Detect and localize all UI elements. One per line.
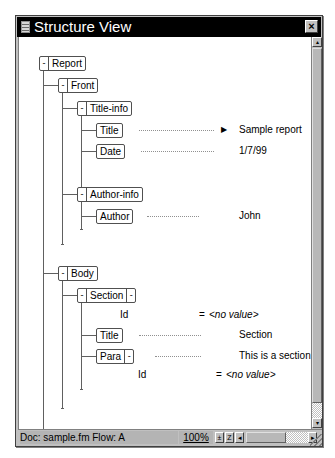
element-value: Section xyxy=(239,329,272,341)
attributes-toggle[interactable]: - xyxy=(126,289,135,302)
tree-line xyxy=(43,64,44,429)
tree-node-section[interactable]: - Section - xyxy=(77,288,136,303)
tree-line xyxy=(43,273,58,274)
node-label: Report xyxy=(49,57,85,70)
doc-flow-status: Doc: sample.fm Flow: A xyxy=(20,431,178,444)
collapse-toggle[interactable]: - xyxy=(78,289,87,302)
collapse-toggle[interactable]: - xyxy=(59,79,68,92)
tree-line xyxy=(62,295,77,296)
tree-line-end xyxy=(80,389,83,390)
collapse-toggle[interactable]: - xyxy=(40,57,49,70)
leader-dots xyxy=(147,216,199,217)
tree-node-title[interactable]: Title xyxy=(96,123,123,138)
attribute-eq: = xyxy=(216,369,222,381)
structure-view-window: Structure View × - Re xyxy=(15,15,323,447)
node-label: Body xyxy=(68,267,97,280)
tree-line xyxy=(81,216,96,217)
tree-line xyxy=(81,296,82,389)
node-label: Date xyxy=(97,145,124,158)
title-bar[interactable]: Structure View × xyxy=(17,17,321,37)
tree-line xyxy=(62,194,77,195)
attribute-name: Id xyxy=(120,309,128,321)
insertion-marker-icon: ▶ xyxy=(221,124,227,136)
collapse-toggle[interactable]: - xyxy=(78,188,87,201)
scroll-down-button[interactable]: ▾ xyxy=(312,418,322,428)
tree-node-title-info[interactable]: - Title-info xyxy=(77,101,132,116)
zoom-level[interactable]: 100% xyxy=(179,431,213,444)
resize-grip[interactable] xyxy=(310,434,322,446)
element-value: Sample report xyxy=(239,124,302,136)
element-value: 1/7/99 xyxy=(239,145,267,157)
tree-node-body[interactable]: - Body xyxy=(58,266,98,281)
scroll-up-button[interactable]: ▴ xyxy=(312,37,322,47)
element-value: This is a section. xyxy=(239,350,311,362)
tree-line xyxy=(81,109,82,188)
tree-line-end xyxy=(80,229,83,230)
structure-view-icon xyxy=(21,21,30,33)
tree-line xyxy=(81,356,96,357)
tree-node-para[interactable]: Para - xyxy=(96,349,134,364)
attribute-value-text: <no value> xyxy=(226,369,276,380)
collapse-toggle[interactable]: - xyxy=(59,267,68,280)
leader-dots xyxy=(139,335,201,336)
node-label: Title-info xyxy=(87,102,131,115)
tree-node-section-title[interactable]: Title xyxy=(96,328,123,343)
collapse-toggle[interactable]: - xyxy=(78,102,87,115)
tree-line xyxy=(62,86,63,244)
scroll-left-button[interactable]: ◂ xyxy=(235,432,244,443)
node-label: Para xyxy=(97,350,124,363)
node-label: Title xyxy=(97,124,122,137)
tree-line xyxy=(81,151,96,152)
vertical-scroll-thumb[interactable] xyxy=(312,48,322,403)
structure-tree-area[interactable]: - Report - Front - Title-info Title ▶ Sa… xyxy=(18,37,311,429)
attribute-value[interactable]: <no value> xyxy=(226,369,276,381)
tree-node-front[interactable]: - Front xyxy=(58,78,98,93)
zoom-out-button[interactable]: ± xyxy=(215,432,224,443)
attribute-value-text: <no value> xyxy=(209,309,259,320)
status-bar: Doc: sample.fm Flow: A 100% ± Z ◂ ▸ xyxy=(18,429,322,445)
leader-dots xyxy=(155,356,201,357)
tree-line xyxy=(81,130,96,131)
node-label: Front xyxy=(68,79,97,92)
element-value: John xyxy=(239,210,261,222)
vertical-scroll-track[interactable] xyxy=(312,403,322,418)
attribute-value[interactable]: <no value> xyxy=(209,309,259,321)
tree-node-date[interactable]: Date xyxy=(96,144,125,159)
attribute-eq: = xyxy=(199,309,205,321)
zoom-in-button[interactable]: Z xyxy=(225,432,234,443)
attribute-name: Id xyxy=(138,369,146,381)
vertical-scrollbar[interactable]: ▴ ▾ xyxy=(311,37,322,429)
tree-line xyxy=(81,335,96,336)
tree-line-end xyxy=(61,408,64,409)
node-label: Section xyxy=(87,289,126,302)
node-label: Author-info xyxy=(87,188,142,201)
leader-dots xyxy=(139,130,214,131)
horizontal-scroll-track[interactable] xyxy=(286,432,308,443)
node-label: Author xyxy=(97,210,132,223)
tree-line xyxy=(43,85,58,86)
leader-dots xyxy=(141,151,214,152)
horizontal-scroll-thumb[interactable] xyxy=(246,432,286,443)
attributes-toggle[interactable]: - xyxy=(124,350,133,363)
close-button[interactable]: × xyxy=(305,20,318,33)
node-label: Title xyxy=(97,329,122,342)
window-title: Structure View xyxy=(34,18,131,36)
tree-node-author[interactable]: Author xyxy=(96,209,133,224)
tree-node-report[interactable]: - Report xyxy=(39,56,86,71)
tree-node-author-info[interactable]: - Author-info xyxy=(77,187,143,202)
tree-line-end xyxy=(61,244,64,245)
tree-line xyxy=(62,108,77,109)
